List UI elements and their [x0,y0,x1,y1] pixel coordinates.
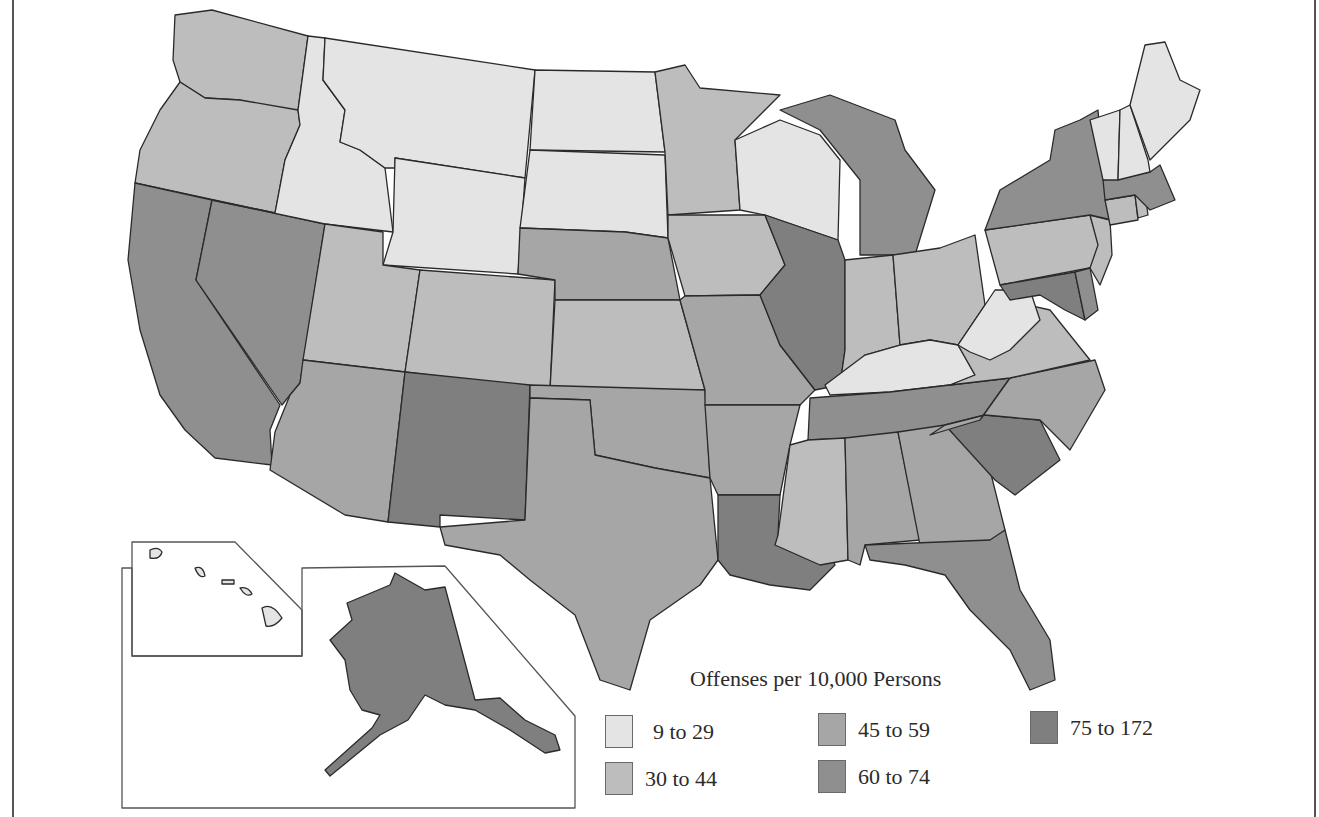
legend-title: Offenses per 10,000 Persons [690,666,941,692]
legend-label: 45 to 59 [858,717,930,743]
legend-item-45-59: 45 to 59 [818,713,930,746]
legend-swatch [1030,711,1058,744]
state-wy[interactable] [383,158,525,274]
state-ks[interactable] [550,300,705,390]
legend-item-75-172: 75 to 172 [1030,711,1153,744]
legend-item-60-74: 60 to 74 [818,760,930,793]
legend-label: 9 to 29 [653,719,714,745]
legend-swatch [605,715,633,748]
legend-swatch [605,762,633,795]
legend-item-30-44: 30 to 44 [605,762,717,795]
state-ia[interactable] [668,215,785,296]
hawaii-inset-box [132,542,302,656]
legend-label: 60 to 74 [858,764,930,790]
legend-swatch [818,713,846,746]
state-nm[interactable] [388,372,530,527]
state-sd[interactable] [520,150,668,238]
state-hi[interactable] [150,548,282,626]
state-ak[interactable] [325,573,560,776]
legend-label: 30 to 44 [645,766,717,792]
us-choropleth-map [0,0,1319,817]
state-nd[interactable] [530,70,665,152]
state-co[interactable] [405,270,555,390]
legend-item-9-29: 9 to 29 [605,715,714,748]
legend-label: 75 to 172 [1070,715,1153,741]
legend-swatch [818,760,846,793]
